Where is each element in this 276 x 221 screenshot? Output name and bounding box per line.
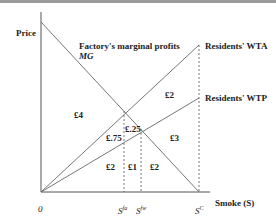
wta-curve-label: Residents' WTA xyxy=(205,41,267,51)
x-axis-label: Smoke (S) xyxy=(215,198,254,208)
y-axis-label: Price xyxy=(16,28,36,38)
wtp-curve xyxy=(41,98,199,192)
wta-curve xyxy=(41,45,199,192)
area-label-2-left: £2 xyxy=(106,162,115,172)
area-label-3: £3 xyxy=(170,133,179,143)
diagram-canvas xyxy=(0,0,276,221)
area-label-2-right: £2 xyxy=(150,162,159,172)
area-label-2-top: £2 xyxy=(165,90,174,100)
mg-curve-short-label: MG xyxy=(79,51,94,61)
x-tick-sfw: Sfw xyxy=(136,203,146,216)
mg-curve-label: Factory's marginal profits xyxy=(79,41,180,51)
area-label-4: £4 xyxy=(74,110,83,120)
x-tick-sfa: Sfa xyxy=(118,203,127,216)
area-label-075: £.75 xyxy=(106,133,122,143)
wtp-curve-label: Residents' WTP xyxy=(205,93,267,103)
x-tick-sc: SC xyxy=(195,203,204,216)
origin-label: 0 xyxy=(38,204,43,214)
area-label-025: £.25 xyxy=(125,124,141,134)
area-label-1: £1 xyxy=(128,162,137,172)
